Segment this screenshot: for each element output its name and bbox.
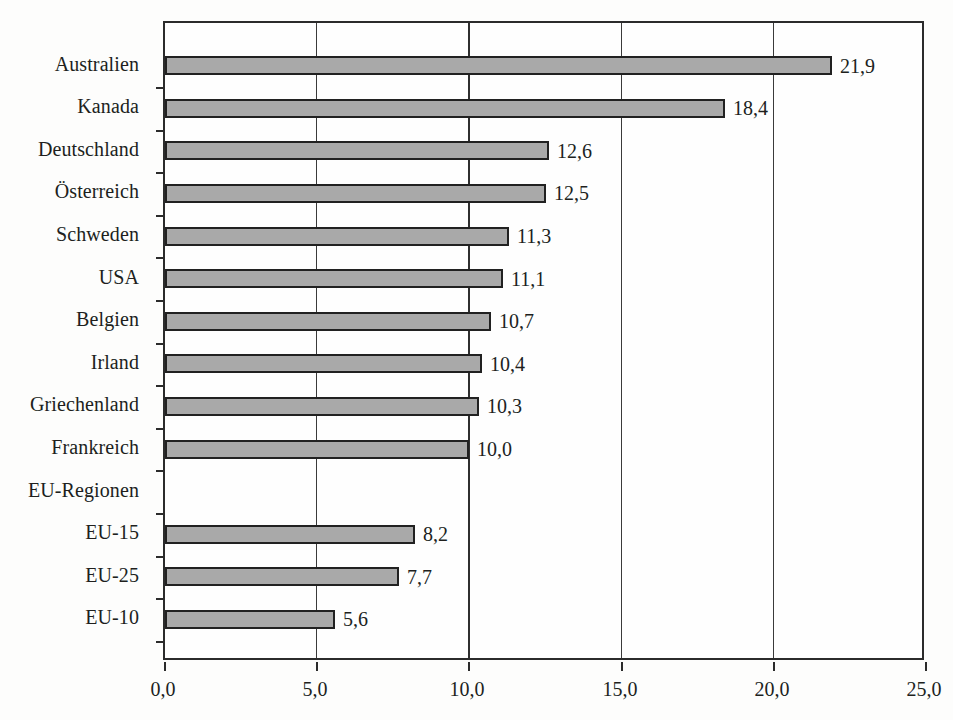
value-axis-tick-label: 10,0 [450, 679, 485, 699]
category-axis-tick [156, 385, 165, 387]
bar-value-label: 5,6 [343, 609, 368, 629]
bar-value-label: 12,5 [554, 183, 589, 203]
bar [165, 99, 725, 118]
bar [165, 525, 415, 544]
category-axis-tick [156, 598, 165, 600]
gridline [468, 23, 470, 658]
category-axis-tick [156, 257, 165, 259]
category-label: Belgien [0, 309, 139, 329]
category-axis-tick [156, 215, 165, 217]
bar [165, 141, 549, 160]
bar-value-label: 7,7 [407, 567, 432, 587]
bar [165, 397, 479, 416]
bar [165, 227, 509, 246]
category-axis-tick [156, 87, 165, 89]
bar [165, 269, 503, 288]
value-axis-tick-label: 15,0 [603, 679, 638, 699]
category-label: EU-15 [0, 522, 139, 542]
bar-chart: AustralienKanadaDeutschlandÖsterreichSch… [0, 0, 953, 720]
gridline [621, 23, 622, 658]
bar [165, 567, 399, 586]
value-axis-tick [925, 662, 927, 671]
bar-value-label: 10,3 [487, 396, 522, 416]
plot-area: 21,918,412,612,511,311,110,710,410,310,0… [163, 21, 924, 660]
category-axis-labels: AustralienKanadaDeutschlandÖsterreichSch… [0, 21, 152, 660]
category-label: Österreich [0, 181, 139, 201]
value-axis-tick [621, 662, 623, 671]
category-label: Deutschland [0, 139, 139, 159]
value-axis-tick-label: 5,0 [303, 679, 328, 699]
category-label: Kanada [0, 96, 139, 116]
value-axis-tick-label: 20,0 [755, 679, 790, 699]
category-axis-tick [156, 470, 165, 472]
category-label: USA [0, 267, 139, 287]
bar-value-label: 12,6 [557, 141, 592, 161]
bar [165, 184, 546, 203]
value-axis-tick-label: 25,0 [907, 679, 942, 699]
bar-value-label: 10,4 [490, 354, 525, 374]
category-label: EU-25 [0, 565, 139, 585]
category-label: EU-10 [0, 607, 139, 627]
category-axis-tick [156, 513, 165, 515]
category-axis-tick [156, 428, 165, 430]
bar-value-label: 11,1 [511, 269, 545, 289]
bar-value-label: 21,9 [840, 56, 875, 76]
bar [165, 354, 482, 373]
value-axis-tick-label: 0,0 [151, 679, 176, 699]
bar [165, 610, 335, 629]
value-axis-tick [773, 662, 775, 671]
bar-value-label: 18,4 [733, 98, 768, 118]
category-label: EU-Regionen [0, 480, 139, 500]
value-axis-tick [164, 662, 166, 671]
bar [165, 312, 491, 331]
gridline [773, 23, 774, 658]
category-axis-tick [156, 556, 165, 558]
bar-value-label: 11,3 [517, 226, 551, 246]
bar-value-label: 10,0 [477, 439, 512, 459]
bar-value-label: 10,7 [499, 311, 534, 331]
value-axis-tick-labels: 0,05,010,015,020,025,0 [0, 679, 953, 709]
category-axis-tick [156, 300, 165, 302]
category-label: Schweden [0, 224, 139, 244]
category-label: Frankreich [0, 437, 139, 457]
category-axis-tick [156, 343, 165, 345]
value-axis-tick [468, 662, 470, 671]
bar-value-label: 8,2 [423, 524, 448, 544]
category-axis-tick [156, 641, 165, 643]
category-axis-tick [156, 130, 165, 132]
category-label: Griechenland [0, 394, 139, 414]
gridline [316, 23, 317, 658]
category-label: Australien [0, 54, 139, 74]
category-label: Irland [0, 352, 139, 372]
value-axis-tick [316, 662, 318, 671]
category-axis-tick [156, 172, 165, 174]
bar [165, 56, 832, 75]
bar [165, 440, 469, 459]
